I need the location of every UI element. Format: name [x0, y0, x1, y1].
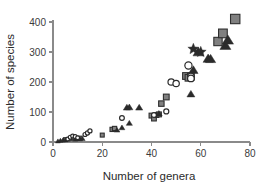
data-point-circle [173, 80, 179, 86]
data-point-circle [164, 109, 169, 114]
data-point-circle [188, 75, 195, 82]
data-point-triangle [136, 104, 143, 110]
x-tick-label: 40 [146, 148, 158, 159]
data-point-triangle [126, 120, 132, 125]
series-squares [63, 14, 239, 141]
y-tick-label: 0 [40, 137, 46, 148]
series-triangles [55, 35, 233, 143]
x-axis-title: Number of genera [103, 170, 196, 182]
chart-canvas: 0204060800100200300400 Number of genera … [0, 0, 266, 184]
data-point-square [159, 101, 164, 106]
y-axis-title: Number of species [4, 34, 16, 130]
x-tick-label: 60 [195, 148, 207, 159]
data-point-square [100, 133, 104, 137]
data-point-square [219, 29, 228, 38]
y-tick-label: 400 [29, 17, 46, 28]
data-point-triangle [187, 90, 195, 96]
data-markers-group [55, 14, 239, 143]
data-point-circle [185, 62, 192, 69]
x-tick-label: 80 [244, 148, 256, 159]
data-point-circle [152, 113, 157, 118]
data-point-square [163, 94, 169, 100]
data-point-circle [76, 136, 80, 140]
x-tick-label: 20 [97, 148, 109, 159]
y-tick-label: 300 [29, 47, 46, 58]
x-tick-label: 0 [50, 148, 56, 159]
y-tick-label: 200 [29, 77, 46, 88]
data-point-circle [120, 116, 125, 121]
scatter-chart-figure: 0204060800100200300400 Number of genera … [0, 0, 266, 184]
data-point-triangle [119, 125, 125, 130]
series-circles [66, 62, 194, 141]
data-point-square [231, 14, 240, 23]
y-tick-label: 100 [29, 107, 46, 118]
data-point-circle [88, 129, 92, 133]
data-point-square [214, 37, 222, 45]
